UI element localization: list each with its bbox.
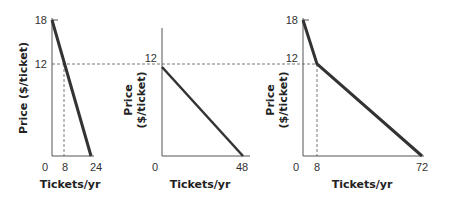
x-tick-0: 0 [293,161,299,173]
x-tick-72: 72 [416,161,428,173]
demand-line [52,20,91,156]
y-tick-12: 12 [35,58,47,70]
panel-3: 18 12 0 8 72 Tickets/yr Price ($/ticket) [264,14,428,191]
total-demand-line [303,20,422,156]
y-tick-12: 12 [145,52,157,64]
panel-2: 12 0 48 Tickets/yr Price ($/ticket) [122,28,250,191]
y-axis-label-line2: ($/ticket) [135,71,148,128]
x-axis-label: Tickets/yr [40,178,101,191]
demand-charts: 18 12 0 8 24 Tickets/yr Price ($/ticket)… [0,0,450,200]
x-tick-8: 8 [314,161,320,173]
demand-line [162,67,243,156]
y-axis-label-line2: ($/ticket) [277,71,290,128]
x-tick-8: 8 [62,161,68,173]
x-axis-label: Tickets/yr [332,178,393,191]
y-tick-18: 18 [35,14,47,26]
y-tick-12: 12 [286,52,298,64]
x-tick-24: 24 [90,161,102,173]
y-tick-18: 18 [286,14,298,26]
x-axis-label: Tickets/yr [170,178,231,191]
panel-1: 18 12 0 8 24 Tickets/yr Price ($/ticket) [17,14,102,191]
y-axis-label: Price ($/ticket) [17,42,30,134]
y-axis-label-line1: Price [122,84,135,115]
x-tick-0: 0 [42,161,48,173]
x-tick-0: 0 [152,161,158,173]
y-axis-label-line1: Price [264,84,277,115]
x-tick-48: 48 [236,161,248,173]
